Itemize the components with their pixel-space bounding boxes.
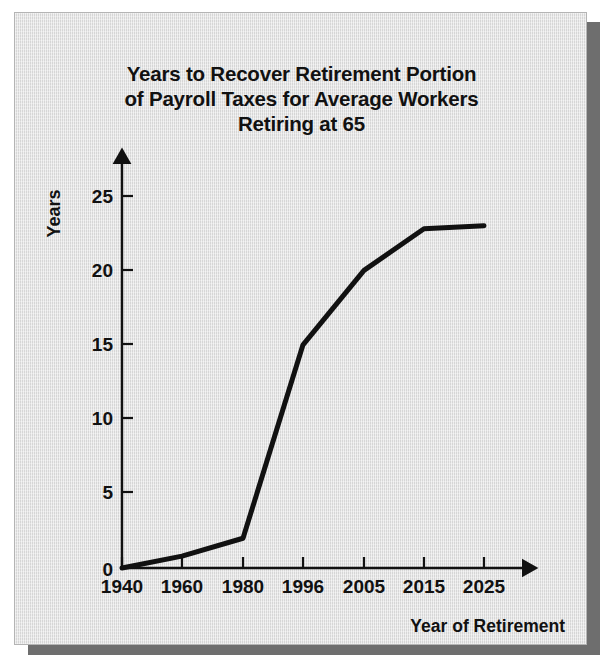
- y-axis-tick-labels: 25 20 15 10 5 0: [92, 186, 114, 580]
- y-tick-label-25: 25: [92, 186, 114, 207]
- x-tick-label-1960: 1960: [161, 576, 203, 597]
- figure-root: Years to Recover Retirement Portion of P…: [0, 0, 614, 667]
- x-tick-label-1940: 1940: [101, 576, 143, 597]
- x-tick-label-2025: 2025: [463, 576, 506, 597]
- x-axis-tick-labels: 1940 1960 1980 1996 2005 2015 2025: [101, 576, 506, 597]
- y-tick-label-15: 15: [92, 334, 114, 355]
- x-tick-label-1980: 1980: [222, 576, 264, 597]
- plot-area: 25 20 15 10 5 0 1940 1960 1980 1996 2005…: [0, 0, 614, 667]
- x-tick-label-2005: 2005: [343, 576, 386, 597]
- x-tick-label-2015: 2015: [403, 576, 446, 597]
- x-tick-label-1996: 1996: [282, 576, 324, 597]
- y-axis-ticks: [122, 196, 133, 492]
- y-tick-label-10: 10: [92, 408, 113, 429]
- data-series-line: [122, 226, 484, 568]
- y-tick-label-20: 20: [92, 260, 113, 281]
- y-tick-label-5: 5: [102, 482, 113, 503]
